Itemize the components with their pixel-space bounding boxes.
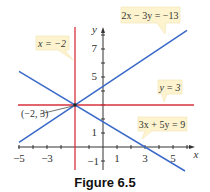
y-axis xyxy=(101,27,105,170)
y-tick-label: 5 xyxy=(92,70,98,82)
y-axis-label: y xyxy=(91,23,97,35)
callout-label: x = −2 xyxy=(37,38,66,49)
callout-3x-5y: 3x + 5y = 9 xyxy=(138,117,187,139)
x-tick-label: 1 xyxy=(114,152,120,164)
point-label: (−2, 3) xyxy=(21,108,48,120)
y-tick-label: −1 xyxy=(87,155,99,167)
callout-label: 2x − 3y = −13 xyxy=(122,10,179,21)
x-axis-label: x xyxy=(193,148,199,160)
callout-2x-3y: 2x − 3y = −13 xyxy=(121,7,180,34)
intersection-point xyxy=(73,103,77,107)
callout-label: y = 3 xyxy=(158,82,180,93)
callout-label: 3x + 5y = 9 xyxy=(139,119,185,130)
y-tick-label: 7 xyxy=(92,42,98,54)
y-tick-label: 1 xyxy=(92,126,98,138)
x-tick-label: −5 xyxy=(13,152,25,164)
x-tick-label: −3 xyxy=(41,152,53,164)
callout-y-eq-3: y = 3 xyxy=(158,80,182,102)
x-axis xyxy=(18,145,195,149)
figure-graph: −5 −3 1 3 5 x 7 5 1 −1 y (−2, 3) x = −2 … xyxy=(0,0,210,192)
x-tick-label: 3 xyxy=(142,152,148,164)
callout-x-eq-neg2: x = −2 xyxy=(36,36,73,60)
figure-caption: Figure 6.5 xyxy=(0,175,210,190)
